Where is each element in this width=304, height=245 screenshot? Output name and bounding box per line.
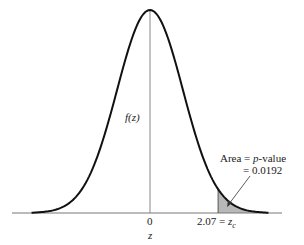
area-annotation-line1: Area = p-value — [220, 153, 286, 164]
tick-label-zero: 0 — [147, 216, 153, 227]
y-axis-label: f(z) — [125, 112, 140, 123]
area-suffix: -value — [259, 152, 286, 164]
x-axis-label: z — [148, 230, 152, 241]
critical-sub: c — [232, 221, 236, 230]
area-annotation-value: = 0.0192 — [243, 165, 282, 176]
normal-distribution-chart — [0, 0, 304, 245]
annotation-arrow — [229, 176, 250, 204]
area-prefix: Area = — [220, 152, 253, 164]
tick-label-critical: 2.07 = zc — [197, 216, 236, 230]
critical-value-text: 2.07 = — [197, 215, 228, 227]
